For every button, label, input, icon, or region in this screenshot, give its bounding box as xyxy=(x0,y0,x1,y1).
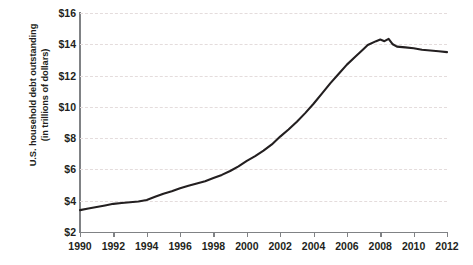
series-line-household-debt xyxy=(80,39,447,210)
y-tick-label-16: $16 xyxy=(40,7,76,19)
x-tick-mark-1996 xyxy=(180,232,181,237)
x-tick-mark-1994 xyxy=(147,232,148,237)
x-tick-mark-2004 xyxy=(314,232,315,237)
x-tick-mark-1992 xyxy=(113,232,114,237)
y-tick-label-10: $10 xyxy=(40,101,76,113)
y-tick-label-4: $4 xyxy=(40,195,76,207)
x-tick-mark-2006 xyxy=(347,232,348,237)
y-axis-tick-labels: $2$4$6$8$10$12$14$16 xyxy=(36,13,76,232)
x-tick-mark-2002 xyxy=(280,232,281,237)
x-tick-mark-1998 xyxy=(213,232,214,237)
plot-area xyxy=(80,13,447,232)
x-tick-mark-1990 xyxy=(80,232,81,237)
x-tick-mark-2010 xyxy=(414,232,415,237)
y-tick-label-6: $6 xyxy=(40,163,76,175)
chart-container: U.S. household debt outstanding (in tril… xyxy=(0,0,473,265)
x-tick-mark-2000 xyxy=(247,232,248,237)
x-tick-mark-2008 xyxy=(380,232,381,237)
data-series-line-chart xyxy=(80,13,447,232)
y-tick-label-8: $8 xyxy=(40,132,76,144)
y-tick-label-2: $2 xyxy=(40,226,76,238)
x-tick-label-2012: 2012 xyxy=(422,240,472,252)
y-tick-label-12: $12 xyxy=(40,70,76,82)
y-tick-label-14: $14 xyxy=(40,38,76,50)
x-tick-mark-2012 xyxy=(447,232,448,237)
